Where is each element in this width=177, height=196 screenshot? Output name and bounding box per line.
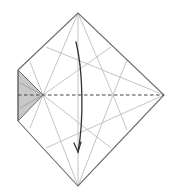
origami-diagram <box>0 0 177 196</box>
crease-top-to-right-inner <box>78 13 113 95</box>
crease-upper-left-to-right <box>46 47 164 95</box>
crease-bottom-to-right-inner <box>78 95 113 186</box>
crease-upper-right-short <box>113 60 127 95</box>
arrow-shaft <box>76 42 82 152</box>
diagram-svg <box>0 0 177 196</box>
crease-lower-left-to-right <box>46 95 164 148</box>
arrow-head-icon <box>74 142 81 152</box>
outline-edge <box>18 13 164 186</box>
paper-outline <box>18 13 164 186</box>
